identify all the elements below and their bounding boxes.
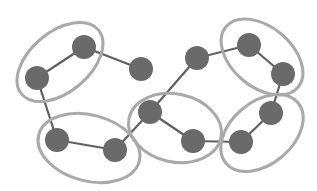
node-J xyxy=(271,62,295,86)
node-A xyxy=(72,35,96,59)
cluster-graph-diagram xyxy=(0,0,317,191)
node-D xyxy=(45,128,69,152)
node-I xyxy=(237,33,261,57)
node-G xyxy=(181,129,205,153)
node-K xyxy=(259,101,283,125)
node-B xyxy=(25,66,49,90)
node-F xyxy=(138,100,162,124)
node-C xyxy=(129,57,153,81)
node-L xyxy=(229,130,253,154)
node-E xyxy=(103,138,127,162)
node-H xyxy=(185,46,209,70)
